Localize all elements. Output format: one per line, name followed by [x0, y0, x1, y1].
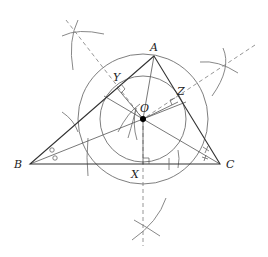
perpendicular-bisector-AB	[66, 20, 143, 119]
label-O: O	[140, 102, 149, 115]
angle-mark-B-upper	[50, 148, 54, 152]
incircle-diagram: A B C O X Y Z	[0, 0, 268, 257]
construction-arcs-bottom	[132, 198, 166, 240]
angle-bisector-C	[143, 119, 220, 164]
incenter-point-O	[140, 116, 146, 122]
construction-arcs-top-right	[200, 48, 238, 96]
construction-arcs-left	[62, 112, 88, 176]
angle-mark-B-lower	[53, 156, 57, 160]
label-B: B	[13, 158, 22, 171]
construction-arcs-top-left	[62, 20, 104, 70]
label-X: X	[130, 168, 140, 181]
angle-bisector-B	[30, 119, 143, 164]
label-A: A	[149, 41, 158, 54]
label-Z: Z	[176, 85, 185, 98]
bisector-extension-C	[104, 96, 143, 119]
angle-mark-C-upper	[203, 146, 209, 153]
angle-mark-C-lower	[202, 155, 208, 161]
right-angle-marker-Y	[121, 84, 125, 93]
right-angle-marker-X	[143, 158, 149, 164]
label-C: C	[226, 158, 235, 171]
